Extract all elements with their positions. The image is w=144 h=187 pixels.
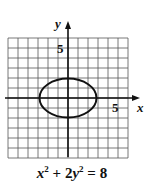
y-axis-arrow-icon [65, 21, 71, 29]
y-axis-label: y [53, 16, 61, 31]
x-tick-label: 5 [112, 100, 119, 115]
ellipse-graph: y x 5 5 [0, 0, 144, 187]
equation-caption: x2 + 2y2 = 8 [0, 164, 144, 182]
y-tick-label: 5 [57, 41, 64, 56]
x-axis-label: x [136, 100, 144, 115]
eq-plus: + [49, 165, 65, 181]
eq-rhs: = 8 [84, 165, 108, 181]
